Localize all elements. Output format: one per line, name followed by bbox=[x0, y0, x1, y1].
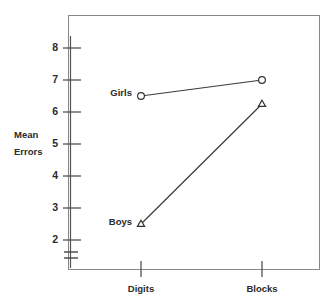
marker-girls-digits bbox=[138, 93, 145, 100]
x-tick-label-blocks: Blocks bbox=[246, 283, 277, 294]
y-tick-label-8: 8 bbox=[52, 41, 58, 53]
y-tick-label-7: 7 bbox=[52, 73, 58, 85]
y-tick-label-4: 4 bbox=[52, 169, 58, 181]
y-tick-label-5: 5 bbox=[52, 137, 58, 149]
series-line-boys bbox=[141, 104, 262, 224]
y-tick-label-2: 2 bbox=[52, 233, 58, 245]
chart-container: 8 7 6 5 4 3 2 Mean Errors Digits Blocks … bbox=[0, 0, 335, 303]
y-axis-title-line1: Mean bbox=[14, 129, 38, 140]
y-tick-label-6: 6 bbox=[52, 105, 58, 117]
marker-girls-blocks bbox=[259, 77, 266, 84]
series-label-girls: Girls bbox=[110, 87, 132, 98]
x-tick-label-digits: Digits bbox=[128, 283, 154, 294]
y-tick-label-3: 3 bbox=[52, 201, 58, 213]
marker-boys-blocks bbox=[258, 100, 265, 106]
series-line-girls bbox=[141, 80, 262, 96]
series-label-boys: Boys bbox=[109, 216, 132, 227]
y-axis-ticks bbox=[63, 48, 81, 240]
y-axis-title-line2: Errors bbox=[14, 146, 43, 157]
plot-frame bbox=[69, 16, 320, 270]
line-chart: 8 7 6 5 4 3 2 Mean Errors Digits Blocks … bbox=[0, 0, 335, 303]
